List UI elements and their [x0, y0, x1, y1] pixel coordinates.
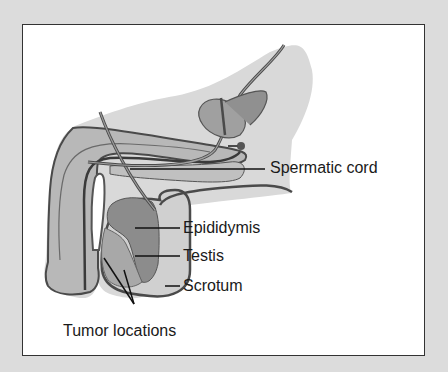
label-testis: Testis — [183, 248, 224, 264]
label-tumor-locations: Tumor locations — [63, 323, 176, 339]
label-scrotum: Scrotum — [183, 278, 243, 294]
bulbourethral-gland — [237, 142, 245, 150]
anatomy-illustration — [0, 0, 448, 372]
label-spermatic-cord: Spermatic cord — [270, 160, 378, 176]
label-epididymis: Epididymis — [183, 220, 260, 236]
